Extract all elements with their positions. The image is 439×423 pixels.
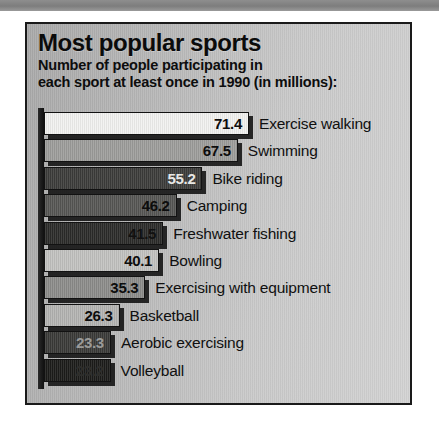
chart-header: Most popular sports Number of people par… (38, 30, 402, 90)
chart-title: Most popular sports (38, 30, 402, 56)
bar-basketball: 26.3 (44, 304, 120, 327)
chart-subtitle-line-1: Number of people participating in (38, 57, 402, 74)
bar-volleyball: 23.2 (44, 359, 111, 382)
bar-row: 26.3Basketball (44, 302, 404, 329)
bar-category-label: Exercising with equipment (155, 276, 330, 299)
bar-row: 71.4Exercise walking (44, 110, 404, 137)
bar-row: 35.3Exercising with equipment (44, 274, 404, 301)
bar-fill: 71.4 (44, 112, 249, 135)
bar-bowling: 40.1 (44, 249, 159, 272)
bar-row: 55.2Bike riding (44, 165, 404, 192)
bar-category-label: Bowling (169, 249, 222, 272)
bar-category-label: Exercise walking (259, 112, 371, 135)
bar-bike-riding: 55.2 (44, 167, 202, 190)
bar-exercising-with-equipment: 35.3 (44, 276, 145, 299)
bar-row: 23.2Volleyball (44, 357, 404, 384)
bar-row: 67.5Swimming (44, 137, 404, 164)
bar-category-label: Bike riding (212, 167, 282, 190)
chart-screenshot: Most popular sports Number of people par… (0, 0, 439, 423)
bar-value-label: 23.2 (76, 362, 110, 379)
chart-panel: Most popular sports Number of people par… (25, 22, 412, 405)
bar-freshwater-fishing: 41.5 (44, 222, 163, 245)
bar-value-label: 67.5 (203, 142, 237, 159)
bar-category-label: Volleyball (121, 359, 185, 382)
bar-fill: 46.2 (44, 194, 177, 217)
bar-value-label: 41.5 (128, 225, 162, 242)
bar-value-label: 55.2 (167, 170, 201, 187)
bar-swimming: 67.5 (44, 139, 238, 162)
bar-camping: 46.2 (44, 194, 177, 217)
bar-row: 41.5Freshwater fishing (44, 220, 404, 247)
bar-value-label: 35.3 (110, 279, 144, 296)
bar-row: 46.2Camping (44, 192, 404, 219)
bar-category-label: Aerobic exercising (121, 331, 244, 354)
bar-fill: 41.5 (44, 222, 163, 245)
top-gray-band (0, 0, 439, 11)
chart-subtitle-line-2: each sport at least once in 1990 (in mil… (38, 74, 402, 91)
bar-fill: 40.1 (44, 249, 159, 272)
bar-category-label: Camping (187, 194, 248, 217)
bar-aerobic-exercising: 23.3 (44, 331, 111, 354)
bar-fill: 67.5 (44, 139, 238, 162)
bar-row: 23.3Aerobic exercising (44, 329, 404, 356)
bar-category-label: Freshwater fishing (173, 222, 296, 245)
bar-category-label: Basketball (130, 304, 200, 327)
bar-rows: 71.4Exercise walking67.5Swimming55.2Bike… (44, 110, 404, 384)
bar-fill: 26.3 (44, 304, 120, 327)
bar-value-label: 71.4 (214, 115, 248, 132)
bar-fill: 35.3 (44, 276, 145, 299)
bar-exercise-walking: 71.4 (44, 112, 249, 135)
bar-value-label: 46.2 (142, 197, 176, 214)
bar-row: 40.1Bowling (44, 247, 404, 274)
bar-fill: 23.2 (44, 359, 111, 382)
bar-category-label: Swimming (248, 139, 318, 162)
bar-value-label: 23.3 (76, 334, 110, 351)
bar-fill: 23.3 (44, 331, 111, 354)
bar-fill: 55.2 (44, 167, 202, 190)
bar-value-label: 40.1 (124, 252, 158, 269)
bar-value-label: 26.3 (85, 307, 119, 324)
plot-area: 71.4Exercise walking67.5Swimming55.2Bike… (38, 110, 404, 393)
